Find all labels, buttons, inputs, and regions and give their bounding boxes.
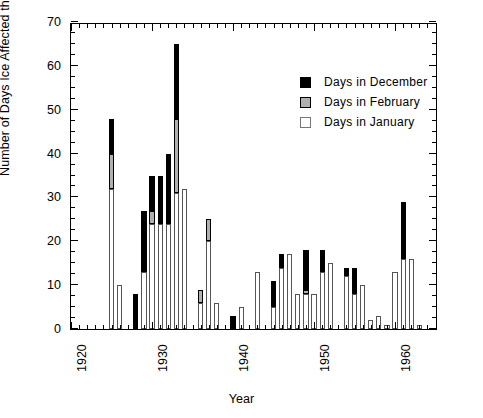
bar-1943 bbox=[255, 272, 260, 329]
legend-swatch-jan-icon bbox=[300, 117, 311, 128]
bar-segment-jan-1951 bbox=[320, 272, 325, 329]
y-tick-25 bbox=[71, 218, 75, 219]
y-tick-right-0 bbox=[429, 328, 436, 329]
y-tick-32.5 bbox=[71, 185, 75, 186]
x-axis-title: Year bbox=[0, 392, 483, 406]
x-tick-top-1929 bbox=[144, 24, 145, 28]
legend-item-jan: Days in January bbox=[300, 114, 428, 131]
y-tick-35 bbox=[71, 175, 75, 176]
bar-segment-jan-1949 bbox=[303, 294, 308, 329]
x-tick-1929 bbox=[144, 325, 145, 329]
y-tick-right-55 bbox=[432, 87, 436, 88]
bar-1955 bbox=[352, 268, 357, 329]
x-tick-top-1952 bbox=[330, 24, 331, 28]
y-tick-right-52.5 bbox=[432, 98, 436, 99]
x-tick-top-1935 bbox=[193, 24, 194, 28]
x-tick-top-1963 bbox=[419, 24, 420, 28]
y-tick-50 bbox=[71, 109, 78, 110]
x-tick-top-1934 bbox=[184, 24, 185, 28]
x-tick-1951 bbox=[322, 325, 323, 329]
x-tick-top-1936 bbox=[201, 24, 202, 28]
x-tick-1938 bbox=[217, 325, 218, 329]
y-tick-right-17.5 bbox=[432, 251, 436, 252]
bar-segment-jan-1956 bbox=[360, 285, 365, 329]
bar-segment-jan-1962 bbox=[409, 259, 414, 329]
x-tick-1960 bbox=[395, 322, 396, 329]
bar-segment-dec-1929 bbox=[141, 211, 146, 272]
x-tick-top-1957 bbox=[371, 24, 372, 28]
bar-1933 bbox=[174, 44, 179, 329]
bar-segment-jan-1946 bbox=[279, 268, 284, 329]
bar-segment-jan-1955 bbox=[352, 294, 357, 329]
bar-segment-jan-1930 bbox=[149, 224, 154, 329]
x-tick-label-1930: 1930 bbox=[157, 344, 170, 372]
y-tick-right-15 bbox=[432, 262, 436, 263]
legend-swatch-dec-icon bbox=[300, 77, 311, 88]
bar-segment-dec-1932 bbox=[166, 154, 171, 224]
bar-1936 bbox=[198, 290, 203, 329]
x-tick-1948 bbox=[298, 325, 299, 329]
bar-1928 bbox=[133, 294, 138, 329]
bar-segment-jan-1960 bbox=[392, 272, 397, 329]
y-tick-17.5 bbox=[71, 251, 75, 252]
y-tick-label-20: 20 bbox=[21, 235, 61, 248]
bar-1961 bbox=[401, 202, 406, 329]
y-tick-label-40: 40 bbox=[21, 148, 61, 161]
x-tick-1941 bbox=[241, 325, 242, 329]
bar-segment-jan-1937 bbox=[206, 241, 211, 329]
x-tick-top-1953 bbox=[338, 24, 339, 28]
x-tick-1926 bbox=[120, 325, 121, 329]
bar-segment-feb-1925 bbox=[109, 154, 114, 189]
bar-segment-dec-1961 bbox=[401, 202, 406, 259]
x-tick-1962 bbox=[411, 325, 412, 329]
x-tick-1949 bbox=[306, 325, 307, 329]
x-tick-top-1946 bbox=[282, 24, 283, 28]
y-tick-label-70: 70 bbox=[21, 16, 61, 29]
bar-segment-jan-1961 bbox=[401, 259, 406, 329]
x-tick-1958 bbox=[379, 325, 380, 329]
bar-segment-jan-1934 bbox=[182, 189, 187, 329]
bar-1937 bbox=[206, 219, 211, 329]
legend-item-dec: Days in December bbox=[300, 74, 428, 91]
y-tick-10 bbox=[71, 284, 78, 285]
y-tick-60 bbox=[71, 65, 78, 66]
bar-1925 bbox=[109, 119, 114, 330]
bar-segment-jan-1948 bbox=[295, 294, 300, 329]
x-tick-1922 bbox=[87, 325, 88, 329]
y-tick-right-2.5 bbox=[432, 317, 436, 318]
x-tick-top-1951 bbox=[322, 24, 323, 28]
bar-1945 bbox=[271, 281, 276, 329]
y-tick-55 bbox=[71, 87, 75, 88]
y-tick-47.5 bbox=[71, 120, 75, 121]
y-tick-right-12.5 bbox=[432, 273, 436, 274]
legend-swatch-feb-icon bbox=[300, 97, 311, 108]
y-tick-right-65 bbox=[432, 43, 436, 44]
bar-1951 bbox=[320, 250, 325, 329]
y-tick-right-35 bbox=[432, 175, 436, 176]
x-tick-1946 bbox=[282, 325, 283, 329]
y-tick-right-30 bbox=[429, 196, 436, 197]
x-tick-top-1947 bbox=[290, 24, 291, 28]
x-tick-1931 bbox=[160, 325, 161, 329]
y-tick-label-0: 0 bbox=[21, 323, 61, 336]
x-tick-1950 bbox=[314, 322, 315, 329]
x-tick-1953 bbox=[338, 325, 339, 329]
x-tick-top-1944 bbox=[265, 24, 266, 28]
x-tick-1955 bbox=[355, 325, 356, 329]
bar-segment-jan-1932 bbox=[166, 224, 171, 329]
bar-segment-feb-1936 bbox=[198, 290, 203, 303]
x-tick-top-1965 bbox=[436, 24, 437, 28]
x-tick-top-1931 bbox=[160, 24, 161, 28]
x-tick-label-1940: 1940 bbox=[238, 344, 251, 372]
chart-figure: Number of Days Ice Affected the Gaging S… bbox=[0, 0, 483, 418]
y-tick-5 bbox=[71, 306, 75, 307]
y-tick-40 bbox=[71, 153, 78, 154]
y-tick-2.5 bbox=[71, 317, 75, 318]
x-tick-top-1950 bbox=[314, 24, 315, 31]
bar-segment-dec-1945 bbox=[271, 281, 276, 307]
y-tick-62.5 bbox=[71, 54, 75, 55]
bar-segment-dec-1951 bbox=[320, 250, 325, 272]
x-tick-label-1920: 1920 bbox=[76, 344, 89, 372]
bar-segment-jan-1933 bbox=[174, 193, 179, 329]
y-tick-right-27.5 bbox=[432, 207, 436, 208]
